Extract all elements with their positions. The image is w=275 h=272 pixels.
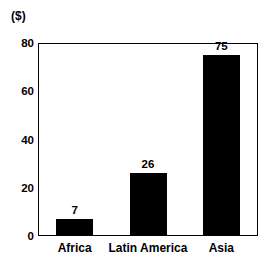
bar: [56, 219, 93, 236]
bar-value-label: 26: [118, 158, 178, 170]
y-axis-tick-labels: 020406080: [0, 0, 34, 272]
bar: [130, 173, 167, 236]
bar: [203, 55, 240, 236]
chart-screenshot: ($) 020406080 72675 AfricaLatin AmericaA…: [0, 0, 275, 272]
y-axis-tick-label: 40: [0, 134, 34, 145]
bars-layer: 72675: [38, 43, 258, 236]
y-axis-tick-label: 0: [0, 231, 34, 242]
x-axis-tick-labels: AfricaLatin AmericaAsia: [38, 241, 258, 261]
y-axis-tick-label: 80: [0, 38, 34, 49]
bar-value-label: 7: [45, 204, 105, 216]
y-axis-tick-label: 20: [0, 182, 34, 193]
y-axis-tick-label: 60: [0, 86, 34, 97]
bar-value-label: 75: [191, 40, 251, 52]
x-axis-tick-label: Asia: [166, 241, 275, 255]
